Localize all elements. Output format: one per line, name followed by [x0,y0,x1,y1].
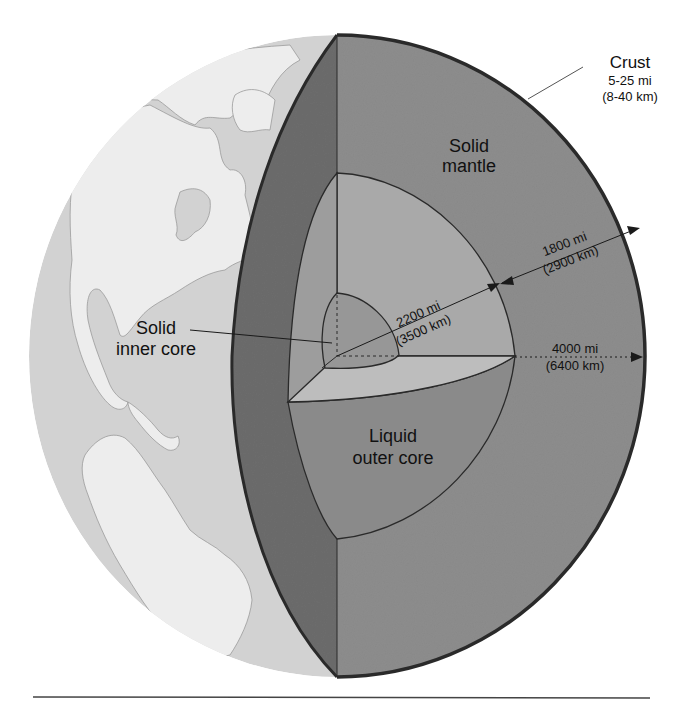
inner-core-label-line1: Solid [136,318,176,338]
earth-radius-mi: 4000 mi [552,341,598,356]
mantle-label-line2: mantle [442,156,496,176]
earth-radius-km: (6400 km) [546,358,605,373]
inner-core-label-line2: inner core [116,339,196,359]
outer-core-label-line1: Liquid [369,426,417,446]
crust-label: Crust 5-25 mi (8-40 km) [528,53,658,104]
mantle-label: Solid mantle [442,136,496,176]
land-europe [232,90,275,132]
outer-core-label-line2: outer core [352,448,433,468]
crust-thickness-mi: 5-25 mi [608,73,651,88]
earth-interior-diagram: 2200 mi (3500 km) 1800 mi (2900 km) 4000… [0,0,675,706]
bottom-rule [33,697,650,698]
crust-title: Crust [610,53,651,72]
mantle-label-line1: Solid [449,136,489,156]
crust-thickness-km: (8-40 km) [602,89,658,104]
